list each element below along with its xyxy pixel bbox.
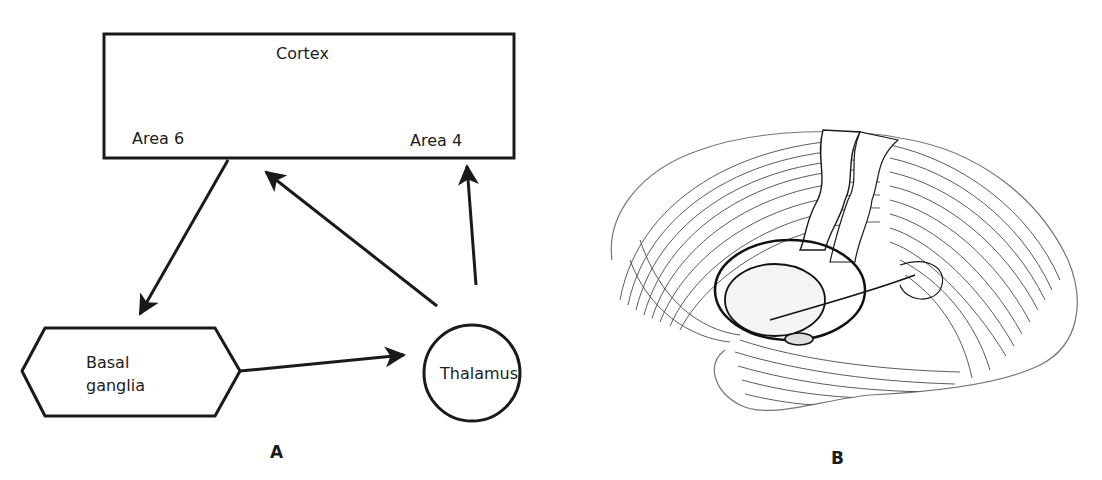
lateral-structure	[900, 262, 943, 299]
cortex-label: Cortex	[276, 44, 329, 63]
panel-b-brain-illustration	[611, 130, 1077, 410]
basal-ganglia-label-line1: Basal	[86, 352, 129, 374]
thalamus-label: Thalamus	[440, 364, 518, 383]
figure-canvas	[0, 0, 1102, 480]
area-4-label: Area 4	[410, 131, 462, 150]
arrow-thalamus-to-area-4	[467, 166, 476, 285]
basal-ganglia-label-line2: ganglia	[86, 375, 145, 397]
amygdala-structure	[785, 333, 813, 345]
arrow-basal-ganglia-to-thalamus	[240, 355, 404, 371]
thalamus-structure	[725, 264, 825, 336]
panel-b-label: B	[831, 448, 844, 468]
panel-a-label: A	[270, 442, 283, 462]
basal-ganglia-hexagon	[22, 328, 240, 416]
area-6-label: Area 6	[132, 129, 184, 148]
arrow-cortex-to-basal-ganglia	[140, 160, 228, 314]
arrow-thalamus-to-area-6	[266, 172, 437, 306]
